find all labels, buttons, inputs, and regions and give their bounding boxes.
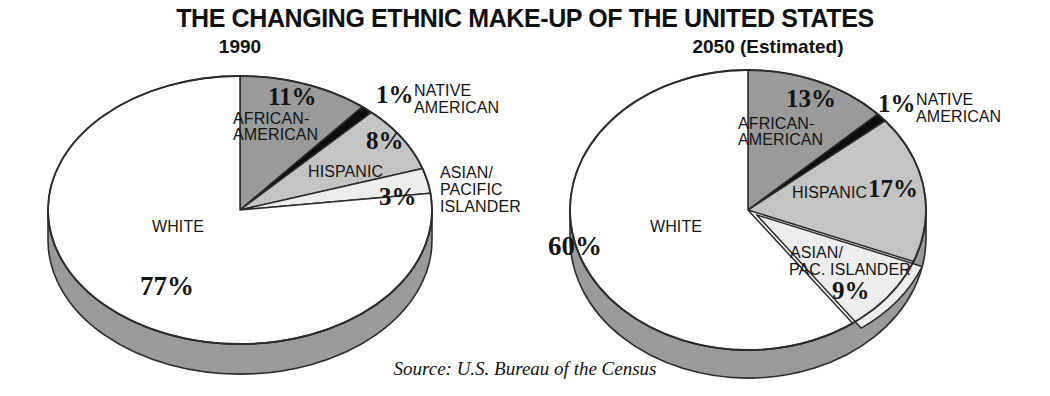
right-native-american-label-line2: AMERICAN: [916, 109, 1001, 125]
left-african-american-label-line2: AMERICAN: [233, 127, 318, 143]
left-asian-label-line3: ISLANDER: [440, 199, 521, 215]
left-hispanic-label: HISPANIC: [308, 164, 383, 180]
source-note: Source: U.S. Bureau of the Census: [0, 358, 1050, 380]
left-hispanic-percent: 8%: [366, 128, 404, 154]
right-african-american-label-line1: AFRICAN-: [738, 116, 814, 132]
left-asian-label-line1: ASIAN/: [440, 165, 493, 181]
right-native-american-label-line1: NATIVE: [916, 92, 973, 108]
left-native-american-percent: 1%: [376, 82, 414, 108]
left-white-label: WHITE: [152, 219, 204, 235]
left-white-percent: 77%: [140, 273, 194, 301]
right-white-label: WHITE: [650, 219, 702, 235]
left-african-american-percent: 11%: [268, 84, 317, 110]
left-asian-percent: 3%: [379, 184, 417, 210]
chart-page: THE CHANGING ETHNIC MAKE-UP OF THE UNITE…: [0, 0, 1050, 396]
left-native-american-label-line1: NATIVE: [414, 83, 471, 99]
left-asian-label-line2: PACIFIC: [440, 182, 503, 198]
right-african-american-percent: 13%: [786, 86, 836, 112]
left-african-american-label-line1: AFRICAN-: [233, 111, 309, 127]
left-native-american-label-line2: AMERICAN: [414, 100, 499, 116]
right-asian-label-line2: PAC. ISLANDER: [789, 262, 911, 278]
right-native-american-percent: 1%: [878, 91, 916, 117]
right-asian-label-line1: ASIAN/: [790, 245, 843, 261]
right-hispanic-percent: 17%: [868, 176, 918, 202]
right-asian-percent: 9%: [832, 278, 870, 304]
right-white-percent: 60%: [548, 233, 602, 261]
right-hispanic-label: HISPANIC: [792, 185, 867, 201]
right-african-american-label-line2: AMERICAN: [738, 132, 823, 148]
